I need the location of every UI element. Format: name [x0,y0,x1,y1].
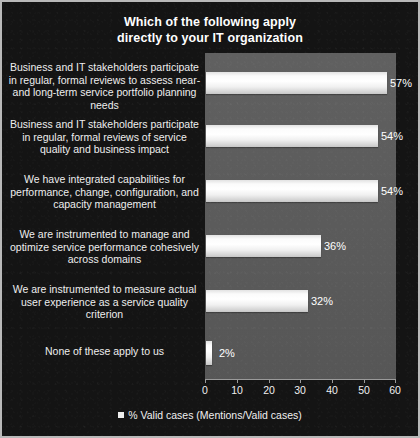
chart-title-line-1: Which of the following apply [2,14,418,30]
x-axis-tick [205,379,206,383]
bar-row: None of these apply to us 2% [2,339,418,371]
category-label: We are instrumented to manage and optimi… [8,228,201,266]
chart-figure: Which of the following apply directly to… [0,0,420,438]
category-label: Business and IT stakeholders participate… [8,61,201,111]
x-axis-tick-label: 10 [231,384,243,396]
x-axis-tick [300,379,301,383]
bar-segment [206,290,308,312]
chart-legend: % Valid cases (Mentions/Valid cases) [2,409,418,421]
x-axis-tick-label: 50 [358,384,370,396]
x-axis-tick [332,379,333,383]
bar-segment [206,72,387,94]
category-label: We are instrumented to measure actual us… [8,283,201,321]
bar-value-label: 32% [311,295,333,307]
bar-value-label: 54% [381,185,403,197]
bar-value-label: 54% [381,130,403,142]
chart-title-line-2: directly to your IT organization [2,30,418,46]
category-label: Business and IT stakeholders participate… [8,118,201,156]
category-label: We have integrated capabilities for perf… [8,173,201,211]
x-axis-tick-label: 30 [294,384,306,396]
legend-label: % Valid cases (Mentions/Valid cases) [128,409,302,421]
bar-value-label: 2% [219,347,235,359]
bar-segment [206,235,321,257]
legend-swatch-icon [118,412,124,418]
bar-row: We are instrumented to measure actual us… [2,279,418,331]
x-axis-tick [395,379,396,383]
x-axis-tick-label: 20 [263,384,275,396]
bar-row: Business and IT stakeholders participate… [2,114,418,166]
bar-segment [206,180,378,202]
bar-value-label: 36% [324,240,346,252]
chart-title: Which of the following apply directly to… [2,14,418,46]
category-label: None of these apply to us [8,345,201,358]
bar-row: We are instrumented to manage and optimi… [2,224,418,276]
bar-row: We have integrated capabilities for perf… [2,169,418,221]
x-axis-tick [237,379,238,383]
x-axis-tick [364,379,365,383]
x-axis-tick-label: 0 [202,384,208,396]
bar-row: Business and IT stakeholders participate… [2,58,418,112]
bar-segment [206,125,378,147]
x-axis-tick [269,379,270,383]
x-axis-tick-label: 40 [326,384,338,396]
bar-value-label: 57% [390,77,412,89]
bar-segment [206,341,212,365]
x-axis-tick-label: 60 [389,384,401,396]
